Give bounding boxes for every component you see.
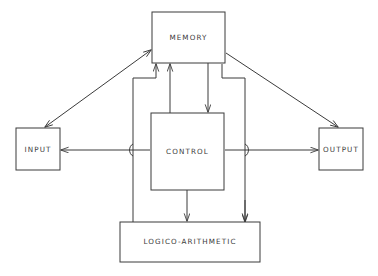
block-input-label: INPUT <box>25 145 52 154</box>
block-diagram-canvas: MEMORY INPUT OUTPUT CONTROL LOGICO-ARITH… <box>0 0 378 276</box>
block-control-label: CONTROL <box>166 147 209 156</box>
block-logico-arithmetic[interactable]: LOGICO-ARITHMETIC <box>120 222 260 262</box>
connection-memory-output <box>226 53 338 127</box>
block-output[interactable]: OUTPUT <box>319 128 363 170</box>
connection-input-memory <box>45 50 151 127</box>
block-memory-label: MEMORY <box>169 33 207 42</box>
block-memory[interactable]: MEMORY <box>152 12 225 63</box>
block-logico-arithmetic-label: LOGICO-ARITHMETIC <box>143 237 236 246</box>
block-output-label: OUTPUT <box>323 145 359 154</box>
connection-control-logico-right-bus <box>222 64 245 222</box>
computer-block-diagram: MEMORY INPUT OUTPUT CONTROL LOGICO-ARITH… <box>0 0 378 276</box>
block-control[interactable]: CONTROL <box>151 113 224 190</box>
block-input[interactable]: INPUT <box>16 128 60 170</box>
